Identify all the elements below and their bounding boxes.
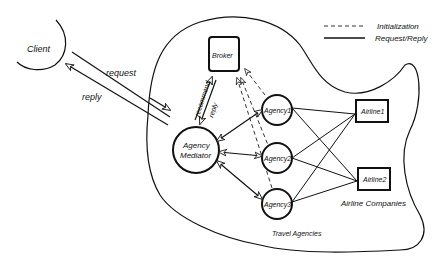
agency1-label: Agency1 xyxy=(263,107,291,115)
mediator-label-2: Mediator xyxy=(180,151,211,160)
airline2-label: Airline2 xyxy=(362,176,386,183)
agency-mediator-node xyxy=(173,127,219,173)
reply-label: reply xyxy=(82,92,102,102)
client-label: Client xyxy=(27,44,51,54)
legend-initialization-label: Initialization xyxy=(377,22,419,31)
legend-request-reply-label: Request/Reply xyxy=(375,34,428,43)
broker-reply-label: reply xyxy=(207,101,219,118)
agency3-label: Agency3 xyxy=(263,201,291,209)
request-label: request xyxy=(106,68,137,78)
broker-label: Broker xyxy=(212,52,233,59)
request-edge xyxy=(72,52,170,117)
travel-agencies-label: Travel Agencies xyxy=(272,230,322,238)
mediator-label-1: Agency xyxy=(182,141,211,150)
diagram-canvas: Client request reply Broker recommend re… xyxy=(0,0,444,267)
agency2-label: Agency2 xyxy=(263,155,291,163)
airline-companies-label: Airline Companies xyxy=(340,199,406,208)
airline1-label: Airline1 xyxy=(360,108,384,115)
